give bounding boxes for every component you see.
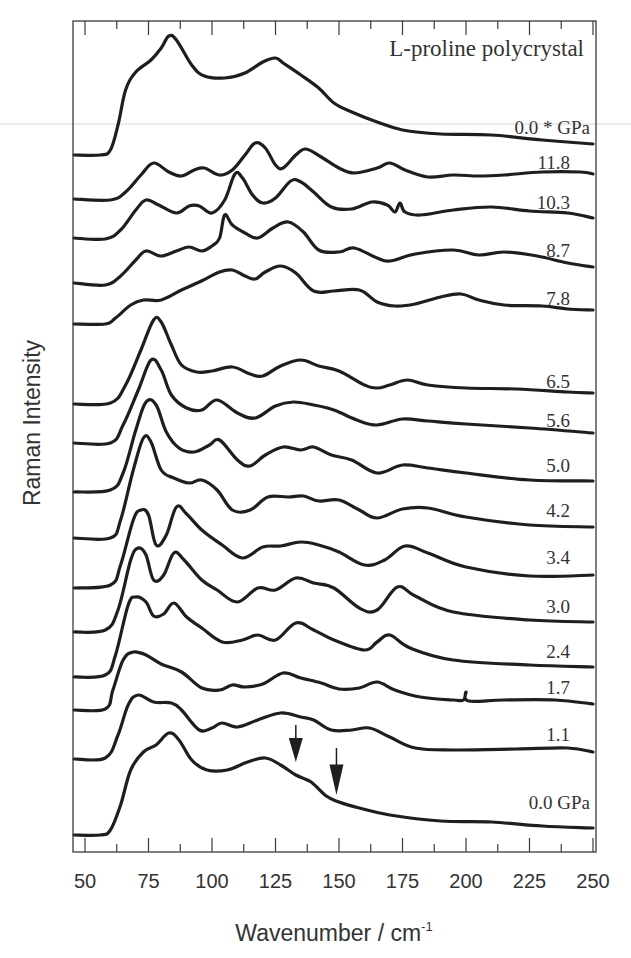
series-label: 1.1	[546, 724, 570, 745]
x-tick-label: 150	[322, 870, 355, 892]
series-label: 1.7	[546, 677, 570, 698]
x-tick-label: 50	[74, 870, 96, 892]
x-axis-title: Wavenumber / cm-1	[235, 919, 432, 946]
x-tick-label: 200	[449, 870, 482, 892]
x-tick-label: 175	[386, 870, 419, 892]
series-label: 6.5	[546, 371, 570, 392]
spectrum-line	[74, 215, 593, 286]
x-tick-label: 100	[195, 870, 228, 892]
chart-title: L-proline polycrystal	[389, 36, 584, 61]
raman-spectra-chart: 5075100125150175200225250 0.0 * GPa11.81…	[0, 0, 631, 958]
plot-frame	[73, 21, 596, 852]
x-axis-ticks	[85, 21, 593, 852]
series-label: 3.4	[546, 547, 570, 568]
spectra-group	[74, 35, 593, 835]
x-tick-label: 125	[259, 870, 292, 892]
series-label: 8.7	[546, 240, 570, 261]
spectrum-line	[74, 172, 593, 239]
x-axis-title-superscript: -1	[421, 919, 433, 934]
arrow-down-icon	[289, 738, 303, 762]
series-label: 4.2	[546, 500, 570, 521]
spectrum-line	[74, 548, 593, 633]
spectrum-line	[74, 266, 593, 324]
x-tick-label: 250	[576, 870, 609, 892]
spectrum-line	[74, 597, 593, 677]
arrow-down-icon	[329, 764, 343, 795]
series-label: 0.0 * GPa	[515, 117, 591, 138]
series-labels: 0.0 * GPa11.810.38.77.86.55.65.04.23.43.…	[515, 117, 591, 813]
series-label: 7.8	[546, 288, 570, 309]
x-tick-label: 75	[137, 870, 159, 892]
x-axis-title-text: Wavenumber / cm	[235, 920, 421, 946]
spectrum-line	[74, 695, 593, 760]
series-label: 5.0	[546, 455, 570, 476]
spectrum-line	[74, 143, 593, 201]
series-label: 10.3	[537, 192, 570, 213]
y-axis-title: Raman Intensity	[19, 339, 45, 506]
series-label: 11.8	[537, 152, 570, 173]
series-label: 3.0	[546, 596, 570, 617]
series-label: 2.4	[546, 641, 570, 662]
x-axis-tick-labels: 5075100125150175200225250	[74, 870, 610, 892]
series-label: 5.6	[546, 410, 570, 431]
series-label: 0.0 GPa	[529, 792, 591, 813]
x-tick-label: 225	[513, 870, 546, 892]
